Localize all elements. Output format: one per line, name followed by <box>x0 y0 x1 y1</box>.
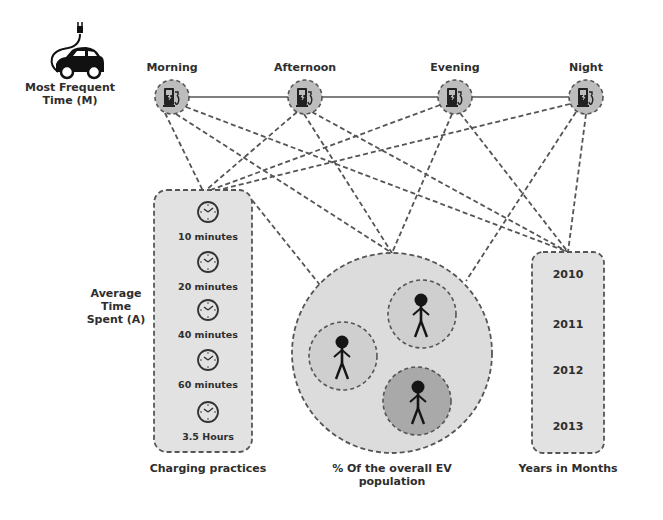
legend-label: Most Frequent Time (M) <box>20 81 120 107</box>
charging-item-label: 20 minutes <box>158 280 258 293</box>
clock-icon <box>198 202 218 222</box>
average-time-label: Average Time Spent (A) <box>76 287 156 326</box>
time-label-evening: Evening <box>415 61 495 74</box>
time-label-afternoon: Afternoon <box>265 61 345 74</box>
legend-label-line2: Time (M) <box>20 94 120 107</box>
years-title: Years in Months <box>513 462 623 475</box>
charging-item-label: 3.5 Hours <box>158 430 258 443</box>
charging-item-label: 60 minutes <box>158 378 258 391</box>
legend-label-line1: Most Frequent <box>20 81 120 94</box>
clock-icon <box>198 402 218 422</box>
clock-icon <box>198 300 218 320</box>
diagram-canvas <box>0 0 663 520</box>
charging-item-label: 40 minutes <box>158 328 258 341</box>
average-time-line3: Spent (A) <box>76 313 156 326</box>
year-label: 2011 <box>538 318 598 331</box>
population-title-line1: % Of the overall EV <box>322 462 462 475</box>
ev-car-plug-icon <box>52 22 104 78</box>
clock-icon <box>198 350 218 370</box>
time-label-night: Night <box>546 61 626 74</box>
average-time-line2: Time <box>76 300 156 313</box>
charging-item-label: 10 minutes <box>158 230 258 243</box>
population-title-line2: population <box>322 475 462 488</box>
year-label: 2010 <box>538 268 598 281</box>
time-label-morning: Morning <box>132 61 212 74</box>
average-time-line1: Average <box>76 287 156 300</box>
clock-icon <box>198 252 218 272</box>
charging-practices-title: Charging practices <box>148 462 268 475</box>
year-label: 2012 <box>538 364 598 377</box>
year-label: 2013 <box>538 420 598 433</box>
population-title: % Of the overall EV population <box>322 462 462 488</box>
